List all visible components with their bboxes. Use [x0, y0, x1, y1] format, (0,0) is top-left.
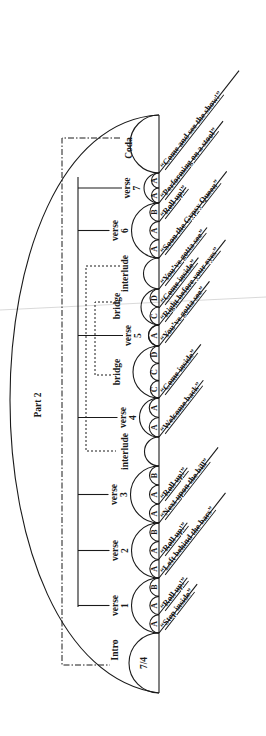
section-arc — [130, 115, 159, 173]
section-label: verse — [109, 484, 119, 505]
segment-label: B — [150, 529, 159, 535]
section-interlude-1 — [145, 437, 160, 466]
section-arcs: 7/4AABAABAABAACCDACDAABAA — [129, 115, 159, 693]
section-label: bridge — [112, 359, 122, 385]
section-label: interlude — [120, 255, 130, 292]
section-label: verse — [118, 407, 128, 428]
section-verse-5: A — [149, 325, 160, 346]
section-number: 5 — [133, 333, 143, 338]
segment-label: A — [150, 177, 159, 183]
section-verse-3: AAB — [131, 466, 160, 523]
section-label: verse — [122, 177, 132, 198]
section-label: Intro — [110, 639, 120, 660]
section-arc — [144, 258, 160, 289]
song-structure-diagram: Part 2 7/4AABAABAABAACCDACDAABAA Introve… — [0, 0, 266, 736]
scan-line — [0, 297, 266, 310]
part-bracket — [62, 138, 120, 665]
section-label: interlude — [120, 433, 130, 470]
section-verse-1: AAB — [132, 578, 160, 633]
section-interlude-2 — [144, 258, 160, 289]
segment-label: B — [150, 209, 159, 215]
section-coda — [130, 115, 159, 173]
section-number: 7 — [132, 185, 142, 190]
time-signature: 7/4 — [139, 657, 149, 669]
section-number: 6 — [120, 228, 130, 233]
section-number: 4 — [128, 415, 138, 420]
section-arc — [145, 437, 160, 466]
lyrics-group: “Step inside”“Roll up!”“Left behind the … — [158, 71, 239, 633]
section-number: 3 — [119, 492, 129, 497]
section-labels: Introverse1verse2verse3interludeverse4br… — [109, 137, 144, 661]
segment-label: D — [150, 295, 159, 301]
section-label: bridge — [112, 293, 122, 319]
section-number: 1 — [120, 603, 130, 608]
section-label: verse — [110, 220, 120, 241]
section-intro: 7/4 — [129, 633, 159, 693]
segment-label: B — [150, 584, 159, 590]
segment-label: A — [150, 227, 159, 233]
segment-label: A — [150, 405, 159, 411]
section-bridge-2: CD — [141, 289, 159, 325]
segment-label: A — [150, 424, 159, 430]
section-verse-2: AAB — [132, 523, 160, 578]
section-label: Coda — [124, 137, 134, 159]
section-label: verse — [110, 540, 120, 561]
segment-label: C — [150, 369, 159, 375]
section-verse-7: AA — [144, 173, 159, 203]
section-label: verse — [110, 595, 120, 616]
part-title: Part 2 — [33, 392, 43, 417]
section-number: 2 — [120, 548, 130, 553]
segment-label: B — [150, 472, 159, 478]
section-verse-6: AAB — [132, 203, 160, 258]
section-verse-4: AA — [140, 398, 160, 437]
segment-label: D — [150, 352, 159, 358]
section-label: verse — [123, 325, 133, 346]
section-bridge-1: CCD — [133, 346, 159, 398]
